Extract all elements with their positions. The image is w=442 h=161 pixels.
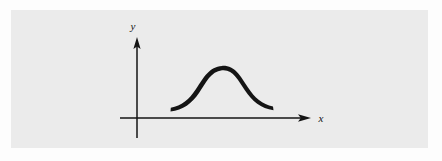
bell-curve-path [171,66,274,112]
x-axis-label: x [318,112,324,124]
y-axis-label: y [130,20,136,32]
figure-canvas: y x [0,0,442,161]
figure-root: y x [0,0,442,161]
